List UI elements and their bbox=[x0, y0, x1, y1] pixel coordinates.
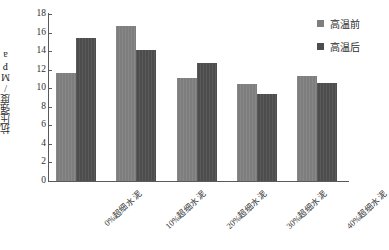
legend-item: 高温前 bbox=[317, 16, 360, 31]
x-axis-category-label: 10%超细水泥 bbox=[162, 187, 208, 231]
bar bbox=[116, 26, 136, 181]
bar bbox=[177, 78, 197, 181]
y-axis-tick-label: 12 bbox=[0, 65, 52, 75]
x-axis-category-labels: 0%超细水泥10%超细水泥20%超细水泥30%超细水泥40%超细水泥 bbox=[0, 183, 372, 250]
x-axis-category-label: 40%超细水泥 bbox=[343, 187, 389, 231]
bar-group bbox=[237, 14, 277, 181]
x-axis-category-label: 30%超细水泥 bbox=[283, 187, 329, 231]
bar bbox=[317, 83, 337, 181]
bar bbox=[136, 50, 156, 181]
legend-item: 高温后 bbox=[317, 39, 360, 54]
y-axis-tick-label: 16 bbox=[0, 28, 52, 38]
bar bbox=[257, 94, 277, 181]
bar bbox=[197, 63, 217, 181]
square-marker-icon bbox=[317, 43, 324, 50]
y-axis-tick-label: 6 bbox=[0, 120, 52, 130]
bar-groups bbox=[48, 14, 349, 181]
bar bbox=[56, 73, 76, 181]
chart-legend: 高温前高温后 bbox=[317, 16, 360, 54]
bar-group bbox=[116, 14, 156, 181]
bar-group bbox=[177, 14, 217, 181]
y-axis-tick-label: 2 bbox=[0, 157, 52, 167]
legend-label: 高温后 bbox=[330, 39, 360, 54]
x-axis-category-label: 0%超细水泥 bbox=[101, 187, 144, 228]
bar bbox=[76, 38, 96, 181]
bar bbox=[297, 76, 317, 181]
y-axis-tick-label: 10 bbox=[0, 83, 52, 93]
bar bbox=[237, 84, 257, 181]
y-axis-tick-label: 8 bbox=[0, 102, 52, 112]
bar-group bbox=[56, 14, 96, 181]
x-axis-line bbox=[48, 181, 349, 182]
x-axis-category-label: 20%超细水泥 bbox=[222, 187, 268, 231]
y-axis-tick-label: 18 bbox=[0, 9, 52, 19]
y-axis-tick-label: 14 bbox=[0, 46, 52, 56]
legend-label: 高温前 bbox=[330, 16, 360, 31]
y-axis-tick-label: 4 bbox=[0, 139, 52, 149]
square-marker-icon bbox=[317, 20, 324, 27]
